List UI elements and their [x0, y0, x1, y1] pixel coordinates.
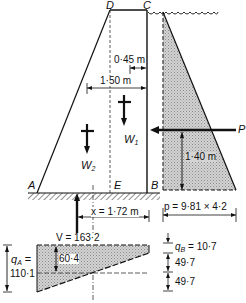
step2-value: 49·7 — [175, 277, 195, 287]
water-pressure-diagram — [163, 12, 236, 190]
point-c-label: C — [143, 0, 151, 11]
qa-label: qA = — [11, 254, 31, 266]
crest-offset-label: 0·45 m — [114, 55, 145, 65]
dam-diagram: D C A E B 0·45 m 1·50 m 1·40 m x = 1·72 … — [0, 0, 246, 303]
qa-value: 110·1 — [10, 269, 35, 279]
water-pressure-label: p = 9·81 × 4·2 — [164, 202, 227, 212]
dimension-qb-stack — [163, 233, 173, 291]
point-b-label: B — [151, 180, 158, 191]
qb-label: qB = 10·7 — [175, 242, 217, 253]
x-label: x = 1·72 m — [91, 207, 139, 217]
p-label: P — [238, 124, 245, 135]
w2-force-arrow — [81, 124, 94, 154]
mid-pressure-label: 60·4 — [59, 254, 79, 264]
p-height-label: 1·40 m — [185, 152, 216, 162]
ground — [28, 193, 160, 200]
w1-force-arrow — [118, 95, 131, 126]
point-a-label: A — [28, 180, 35, 191]
water-surface-icon — [148, 12, 218, 14]
w2-label: W2 — [81, 160, 95, 172]
step1-value: 49·7 — [175, 258, 195, 268]
point-d-label: D — [106, 0, 114, 11]
w1-label: W1 — [124, 134, 138, 146]
base-pressure-diagram — [37, 245, 149, 292]
point-e-label: E — [114, 180, 121, 191]
w2-offset-label: 1·50 m — [100, 76, 131, 86]
v-reaction-label: V = 163·2 — [56, 233, 100, 243]
